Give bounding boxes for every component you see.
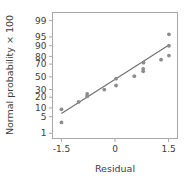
y-tick-label: 1: [41, 128, 47, 138]
normal-probability-plot-figure: 15102030507080909599 -1.501.5 Residual N…: [0, 0, 191, 182]
x-axis-ticks: [61, 139, 168, 143]
x-axis-tick-labels: -1.501.5: [53, 144, 176, 154]
scatter-point: [167, 44, 171, 48]
plot-border: [53, 13, 178, 139]
y-axis-tick-labels: 15102030507080909599: [35, 16, 47, 139]
x-tick-label: -1.5: [53, 144, 71, 154]
scatter-points: [60, 32, 171, 124]
y-tick-label: 5: [41, 112, 47, 122]
y-tick-label: 10: [35, 103, 47, 113]
scatter-point: [60, 107, 64, 111]
y-tick-label: 50: [35, 72, 47, 82]
scatter-point: [114, 84, 118, 88]
scatter-point: [141, 67, 145, 71]
scatter-point: [167, 32, 171, 36]
plot-frame: [53, 13, 178, 139]
y-tick-label: 95: [35, 32, 46, 42]
scatter-point: [114, 77, 118, 81]
y-axis-ticks: [49, 20, 53, 133]
x-tick-label: 1.5: [161, 144, 175, 154]
scatter-point: [102, 88, 106, 92]
scatter-point: [60, 121, 64, 125]
y-tick-label: 80: [35, 52, 47, 62]
chart-canvas: 15102030507080909599 -1.501.5 Residual N…: [0, 0, 191, 182]
scatter-point: [142, 61, 146, 65]
y-tick-label: 30: [35, 85, 47, 95]
scatter-point: [132, 74, 136, 78]
y-tick-label: 90: [35, 41, 47, 51]
x-tick-label: 0: [112, 144, 118, 154]
y-axis-title: Normal probability × 100: [4, 15, 15, 135]
scatter-point: [77, 100, 81, 104]
scatter-point: [167, 54, 171, 58]
x-axis-title: Residual: [95, 163, 135, 174]
y-tick-label: 99: [35, 16, 47, 26]
scatter-point: [159, 58, 163, 62]
scatter-point: [85, 92, 89, 96]
